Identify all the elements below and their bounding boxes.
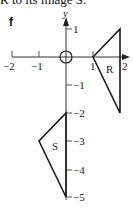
x-tick-label: 2 bbox=[122, 60, 128, 72]
x-tick-label: −2 bbox=[3, 60, 15, 72]
y-tick-label: −3 bbox=[73, 135, 85, 147]
y-axis-label: y bbox=[62, 7, 68, 19]
triangle-s bbox=[39, 113, 66, 197]
y-tick-label: −5 bbox=[73, 191, 85, 203]
triangle-s-label: S bbox=[52, 140, 58, 152]
x-tick-label: −1 bbox=[31, 60, 43, 72]
y-tick-label: −4 bbox=[73, 164, 85, 176]
y-tick-label: 1 bbox=[73, 23, 79, 35]
coordinate-diagram: y −2 −1 1 2 1 −1 −2 −3 −4 −5 R S bbox=[0, 0, 133, 212]
y-tick-label: −1 bbox=[73, 79, 85, 91]
y-tick-label: −2 bbox=[73, 107, 85, 119]
triangle-r-label: R bbox=[106, 63, 114, 75]
